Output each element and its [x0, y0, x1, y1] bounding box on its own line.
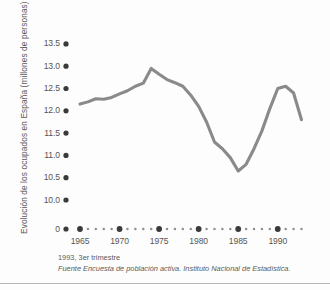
x-minor-tick-dot	[174, 228, 177, 231]
y-tick-dot	[63, 108, 68, 113]
y-tick-dot	[63, 175, 68, 180]
footnote-source: Fuente Encuesta de población activa. Ins…	[58, 264, 291, 273]
y-tick-dot	[63, 64, 68, 69]
x-major-tick-dot	[235, 226, 241, 232]
x-minor-tick-dot	[300, 228, 303, 231]
x-minor-tick-dot	[102, 228, 105, 231]
x-minor-tick-dot	[245, 228, 248, 231]
y-tick-dot	[63, 86, 68, 91]
y-tick-dot	[63, 41, 68, 46]
x-minor-tick-dot	[284, 228, 287, 231]
x-minor-tick-dot	[261, 228, 264, 231]
x-axis-tick-dots	[77, 226, 303, 232]
x-minor-tick-dot	[221, 228, 224, 231]
y-tick-dot	[63, 197, 68, 202]
data-series-line	[80, 68, 301, 171]
x-major-tick-dot	[275, 226, 281, 232]
y-tick-dot	[63, 153, 68, 158]
x-major-tick-dot	[196, 226, 202, 232]
x-major-tick-dot	[77, 226, 83, 232]
x-minor-tick-dot	[269, 228, 272, 231]
x-minor-tick-dot	[150, 228, 153, 231]
y-axis-tick-dots	[63, 41, 68, 231]
x-minor-tick-dot	[95, 228, 98, 231]
x-minor-tick-dot	[134, 228, 137, 231]
bottom-divider	[0, 283, 330, 284]
x-major-tick-dot	[117, 226, 123, 232]
x-minor-tick-dot	[205, 228, 208, 231]
chart-figure: Evolución de los ocupados en España (mil…	[0, 0, 330, 290]
x-minor-tick-dot	[166, 228, 169, 231]
x-minor-tick-dot	[110, 228, 113, 231]
x-minor-tick-dot	[213, 228, 216, 231]
x-minor-tick-dot	[253, 228, 256, 231]
plot-area	[0, 0, 330, 290]
x-minor-tick-dot	[189, 228, 192, 231]
x-minor-tick-dot	[126, 228, 128, 231]
y-axis-break-dot	[63, 226, 68, 231]
y-tick-dot	[63, 131, 68, 136]
x-minor-tick-dot	[292, 228, 295, 231]
x-minor-tick-dot	[142, 228, 145, 231]
footnote-period: 1993, 3er trimestre	[58, 253, 120, 262]
x-major-tick-dot	[156, 226, 162, 232]
x-minor-tick-dot	[87, 228, 90, 231]
x-minor-tick-dot	[182, 228, 185, 231]
x-minor-tick-dot	[229, 228, 232, 231]
